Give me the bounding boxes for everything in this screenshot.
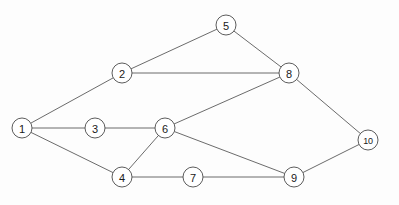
graph-node-circle-4[interactable] xyxy=(112,167,132,187)
graph-node-circle-7[interactable] xyxy=(183,167,203,187)
graph-node-7[interactable]: 7 xyxy=(183,167,203,187)
graph-node-circle-3[interactable] xyxy=(85,118,105,138)
graph-node-circle-5[interactable] xyxy=(216,15,236,35)
graph-node-10[interactable]: 10 xyxy=(358,130,378,150)
graph-edge-4-6 xyxy=(129,136,159,170)
graph-edge-8-10 xyxy=(297,79,361,133)
graph-node-5[interactable]: 5 xyxy=(216,15,236,35)
graph-node-6[interactable]: 6 xyxy=(155,118,175,138)
graph-edge-1-4 xyxy=(31,132,113,172)
edges-layer xyxy=(31,29,361,177)
graph-edge-2-5 xyxy=(131,29,217,69)
graph-node-circle-10[interactable] xyxy=(358,130,378,150)
graph-node-circle-2[interactable] xyxy=(112,63,132,83)
graph-node-4[interactable]: 4 xyxy=(112,167,132,187)
graph-node-circle-6[interactable] xyxy=(155,118,175,138)
graph-node-8[interactable]: 8 xyxy=(279,63,299,83)
graph-edge-1-2 xyxy=(31,78,113,123)
nodes-layer: 12345678910 xyxy=(12,15,378,187)
graph-node-circle-8[interactable] xyxy=(279,63,299,83)
graph-node-9[interactable]: 9 xyxy=(284,167,304,187)
graph-edge-6-8 xyxy=(174,77,280,124)
graph-node-1[interactable]: 1 xyxy=(12,118,32,138)
graph-node-3[interactable]: 3 xyxy=(85,118,105,138)
graph-canvas: 12345678910 xyxy=(0,0,399,205)
graph-node-2[interactable]: 2 xyxy=(112,63,132,83)
graph-node-circle-1[interactable] xyxy=(12,118,32,138)
graph-diagram: 12345678910 xyxy=(0,0,399,205)
graph-edge-5-8 xyxy=(234,31,281,67)
graph-node-circle-9[interactable] xyxy=(284,167,304,187)
graph-edge-9-10 xyxy=(303,144,359,172)
